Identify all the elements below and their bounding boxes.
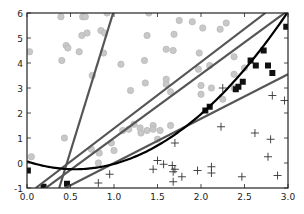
circle-point — [189, 19, 195, 25]
y-tick-label: 3 — [17, 84, 23, 94]
circle-point — [157, 127, 163, 133]
circle-point — [118, 61, 124, 67]
circle-point — [144, 127, 150, 133]
circle-point — [170, 47, 176, 53]
y-tick-label: 0 — [17, 159, 23, 169]
circle-point — [82, 14, 88, 20]
x-tick-label: 1.5 — [150, 192, 164, 202]
x-tick-label: 0.5 — [63, 192, 77, 202]
square-point — [25, 168, 31, 174]
circle-point — [198, 91, 204, 97]
circle-point — [208, 85, 214, 91]
square-point — [265, 63, 271, 69]
circle-point — [95, 160, 101, 166]
circle-point — [76, 49, 82, 55]
circle-point — [176, 17, 182, 23]
circle-point — [150, 126, 156, 132]
circle-point — [28, 154, 34, 160]
scatter-chart: 0.00.51.01.52.02.53.0-10123456 — [0, 0, 304, 214]
y-tick-label: 6 — [17, 9, 23, 19]
circle-point — [111, 147, 117, 153]
circle-point — [223, 20, 229, 26]
x-tick-label: 2.0 — [194, 192, 209, 202]
circle-point — [196, 50, 202, 56]
y-tick-label: -1 — [14, 184, 23, 194]
circle-point — [65, 45, 71, 51]
circle-point — [142, 80, 148, 86]
x-tick-label: 0.0 — [20, 192, 35, 202]
circle-point — [217, 26, 223, 32]
circle-point — [200, 25, 206, 31]
square-point — [240, 79, 246, 85]
square-point — [253, 63, 259, 69]
circle-point — [171, 31, 177, 37]
x-tick-label: 2.5 — [237, 192, 251, 202]
circle-point — [58, 14, 64, 20]
plot-area — [25, 10, 289, 202]
circle-point — [167, 122, 173, 128]
circle-point — [163, 46, 169, 52]
x-tick-label: 1.0 — [107, 192, 122, 202]
y-tick-label: 1 — [17, 134, 23, 144]
circle-point — [198, 82, 204, 88]
circle-point — [61, 135, 67, 141]
y-tick-label: 5 — [17, 34, 23, 44]
y-tick-label: 2 — [17, 109, 23, 119]
circle-point — [59, 57, 65, 63]
circle-point — [138, 130, 144, 136]
circle-point — [84, 30, 90, 36]
circle-point — [141, 57, 147, 63]
square-point — [269, 70, 275, 76]
circle-point — [127, 87, 133, 93]
circle-point — [231, 54, 237, 60]
circle-point — [231, 71, 237, 77]
circle-point — [144, 32, 150, 38]
y-tick-label: 4 — [17, 59, 23, 69]
x-tick-label: 3.0 — [281, 192, 296, 202]
